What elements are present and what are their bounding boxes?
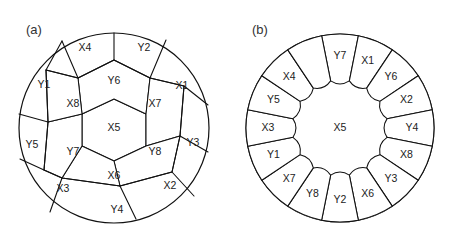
cell-label-a-Y4: Y4 — [111, 203, 124, 215]
cell-label-b-Y6: Y6 — [384, 70, 397, 82]
cell-label-a-X1: X1 — [176, 79, 189, 91]
cell-label-a-Y8: Y8 — [149, 145, 162, 157]
cell-label-a-X4: X4 — [79, 41, 92, 53]
cell-label-a-Y2: Y2 — [138, 41, 151, 53]
cell-label-a-X2: X2 — [164, 179, 177, 191]
cell-label-b-Y7: Y7 — [334, 49, 347, 61]
cell-label-a-Y6: Y6 — [108, 74, 121, 86]
cell-label-b-Y2: Y2 — [334, 193, 347, 205]
cell-label-a-X8: X8 — [67, 97, 80, 109]
cell-label-b-Y5: Y5 — [267, 93, 280, 105]
cell-label-a-X6: X6 — [108, 169, 121, 181]
cell-label-b-Y8: Y8 — [306, 187, 319, 199]
cell-label-b-X8: X8 — [400, 148, 413, 160]
cell-label-b-X5: X5 — [334, 121, 347, 133]
cell-label-b-Y1: Y1 — [267, 148, 280, 160]
panel-b: (b) X5 Y7X1Y6X2Y4X8Y3X6Y2Y8X7Y1X3Y5X4 — [246, 22, 434, 222]
panel-a: (a) X5 Y6 X7 Y8 — [19, 22, 209, 223]
cell-label-a-Y7: Y7 — [67, 145, 80, 157]
cell-label-a-X3: X3 — [57, 182, 70, 194]
cell-label-b-Y3: Y3 — [384, 172, 397, 184]
panel-b-label: (b) — [252, 22, 268, 37]
cell-label-a-Y1: Y1 — [38, 78, 51, 90]
figure-canvas: (a) X5 Y6 X7 Y8 — [0, 0, 450, 249]
cell-label-b-X3: X3 — [262, 121, 275, 133]
cell-label-a-X7: X7 — [149, 97, 162, 109]
cell-label-a-Y5: Y5 — [26, 138, 39, 150]
cell-label-a-Y3: Y3 — [187, 136, 200, 148]
panel-a-label: (a) — [26, 22, 42, 37]
cell-label-b-X6: X6 — [361, 187, 374, 199]
cell-label-b-X1: X1 — [361, 54, 374, 66]
cell-label-b-X2: X2 — [400, 93, 413, 105]
cell-label-b-Y4: Y4 — [406, 121, 419, 133]
cell-label-b-X4: X4 — [283, 70, 296, 82]
cell-label-b-X7: X7 — [283, 172, 296, 184]
cell-label-a-X5: X5 — [108, 121, 121, 133]
